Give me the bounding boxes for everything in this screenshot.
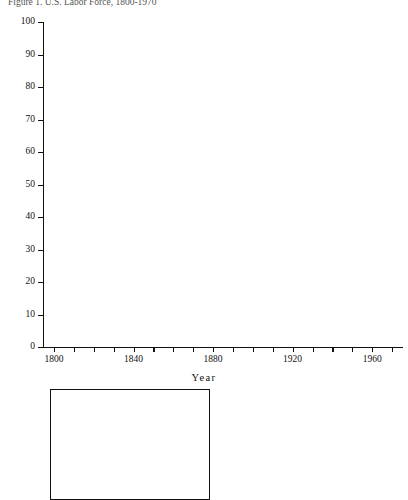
y-axis-tick xyxy=(38,152,44,153)
y-axis-tick xyxy=(38,315,44,316)
x-axis-tick xyxy=(94,347,95,352)
y-axis-tick xyxy=(38,347,44,348)
x-axis-line xyxy=(43,347,403,348)
x-axis-tick xyxy=(74,347,75,352)
x-axis-tick-label: 1880 xyxy=(193,354,233,364)
x-axis-tick-label: 1960 xyxy=(352,354,392,364)
y-axis-tick xyxy=(38,87,44,88)
y-axis-tick-label: 0 xyxy=(0,342,35,352)
y-axis-tick-label: 10 xyxy=(0,310,35,320)
x-axis-tick xyxy=(293,347,294,352)
x-axis-tick xyxy=(134,347,135,352)
y-axis-tick xyxy=(38,185,44,186)
x-axis-tick-label: 1840 xyxy=(114,354,154,364)
x-axis-tick xyxy=(173,347,174,352)
bars-container xyxy=(44,22,402,347)
y-axis-tick-label: 100 xyxy=(0,17,35,27)
y-axis-tick xyxy=(38,250,44,251)
y-axis-label-host: Percent xyxy=(10,210,24,270)
y-axis-tick xyxy=(38,22,44,23)
x-axis-tick xyxy=(193,347,194,352)
y-axis-tick-label: 60 xyxy=(0,147,35,157)
x-axis-tick xyxy=(114,347,115,352)
y-axis-tick-label: 80 xyxy=(0,82,35,92)
y-axis-tick-label: 90 xyxy=(0,50,35,60)
x-axis-tick xyxy=(54,347,55,352)
x-axis-tick xyxy=(392,347,393,352)
y-axis-tick-label: 70 xyxy=(0,115,35,125)
x-axis-tick xyxy=(153,347,154,352)
x-axis-tick xyxy=(233,347,234,352)
x-axis-tick-label: 1800 xyxy=(34,354,74,364)
x-axis-label: Year xyxy=(0,372,408,383)
chart-plot-region: 0102030405060708090100 18001840188019201… xyxy=(0,0,408,360)
y-axis-tick xyxy=(38,55,44,56)
y-axis-tick xyxy=(38,282,44,283)
y-axis-tick xyxy=(38,120,44,121)
x-axis-tick xyxy=(313,347,314,352)
y-axis-tick-label: 20 xyxy=(0,277,35,287)
x-axis-tick xyxy=(253,347,254,352)
x-axis-tick xyxy=(213,347,214,352)
x-axis-tick-label: 1920 xyxy=(273,354,313,364)
x-axis-tick xyxy=(372,347,373,352)
x-axis-tick xyxy=(352,347,353,352)
chart-legend xyxy=(50,389,210,500)
y-axis-tick xyxy=(38,217,44,218)
x-axis-tick xyxy=(332,347,333,352)
y-axis-tick-label: 50 xyxy=(0,180,35,190)
x-axis-tick xyxy=(273,347,274,352)
